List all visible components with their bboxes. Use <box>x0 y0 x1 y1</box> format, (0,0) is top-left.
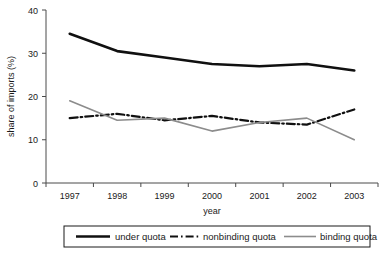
x-tick-label: 2001 <box>249 191 269 201</box>
x-tick-label: 2000 <box>202 191 222 201</box>
y-tick-label: 0 <box>33 179 38 189</box>
legend-label-nonbinding-quota: nonbinding quota <box>203 231 277 242</box>
y-tick-label: 40 <box>28 6 38 16</box>
series-line-under-quota <box>70 34 355 71</box>
x-tick-label: 2003 <box>344 191 364 201</box>
x-tick-label: 1997 <box>60 191 80 201</box>
y-tick-label: 10 <box>28 135 38 145</box>
y-axis-title: share of imports (%) <box>6 56 16 137</box>
y-tick-label: 20 <box>28 92 38 102</box>
x-tick-label: 2002 <box>297 191 317 201</box>
legend-label-binding-quota: binding quota <box>320 231 378 242</box>
line-chart: 0102030401997199819992000200120022003yea… <box>0 0 390 255</box>
x-axis-title: year <box>203 206 221 216</box>
y-tick-label: 30 <box>28 49 38 59</box>
x-tick-label: 1998 <box>107 191 127 201</box>
series-line-nonbinding-quota <box>70 109 355 124</box>
chart-canvas: 0102030401997199819992000200120022003yea… <box>0 0 390 255</box>
series-line-binding-quota <box>70 101 355 140</box>
legend-label-under-quota: under quota <box>115 231 166 242</box>
x-tick-label: 1999 <box>155 191 175 201</box>
